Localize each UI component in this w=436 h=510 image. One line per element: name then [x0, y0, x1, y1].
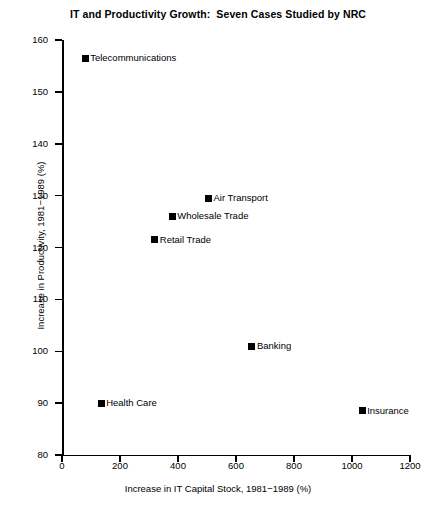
x-tick-label-0: 0	[42, 461, 82, 471]
y-tick-label-80: 80	[16, 450, 48, 460]
data-point-label: Wholesale Trade	[177, 210, 248, 221]
data-point-marker	[248, 343, 255, 350]
y-tick-label-160: 160	[16, 35, 48, 45]
data-point-marker	[169, 213, 176, 220]
y-tick-label-150: 150	[16, 87, 48, 97]
y-tick-130	[55, 195, 62, 197]
y-tick-120	[55, 247, 62, 249]
data-point-label: Health Care	[106, 397, 157, 408]
data-point-label: Telecommunications	[90, 52, 176, 63]
data-point-label: Air Transport	[213, 192, 267, 203]
x-tick-label-200: 200	[100, 461, 140, 471]
x-tick-label-600: 600	[216, 461, 256, 471]
data-point-marker	[359, 407, 366, 414]
y-tick-label-90: 90	[16, 398, 48, 408]
y-tick-140	[55, 143, 62, 145]
y-tick-100	[55, 351, 62, 353]
data-point-marker	[205, 195, 212, 202]
data-point-label: Retail Trade	[160, 234, 211, 245]
data-point-marker	[151, 236, 158, 243]
data-point-marker	[98, 400, 105, 407]
y-tick-160	[55, 39, 62, 41]
x-tick-label-400: 400	[158, 461, 198, 471]
y-tick-110	[55, 299, 62, 301]
data-point-label: Banking	[257, 340, 291, 351]
scatter-plot: IT and Productivity Growth: Seven Cases …	[0, 0, 436, 510]
x-tick-label-800: 800	[274, 461, 314, 471]
data-point-label: Insurance	[367, 405, 409, 416]
y-tick-150	[55, 91, 62, 93]
x-axis-title: Increase in IT Capital Stock, 1981−1989 …	[0, 483, 436, 494]
data-point-marker	[82, 55, 89, 62]
y-axis-title: Increase in Productivity, 1981−1989 (%)	[35, 126, 46, 366]
x-tick-label-1200: 1200	[390, 461, 430, 471]
y-tick-90	[55, 402, 62, 404]
chart-title: IT and Productivity Growth: Seven Cases …	[0, 8, 436, 20]
y-axis-line	[62, 40, 64, 456]
x-tick-label-1000: 1000	[332, 461, 372, 471]
